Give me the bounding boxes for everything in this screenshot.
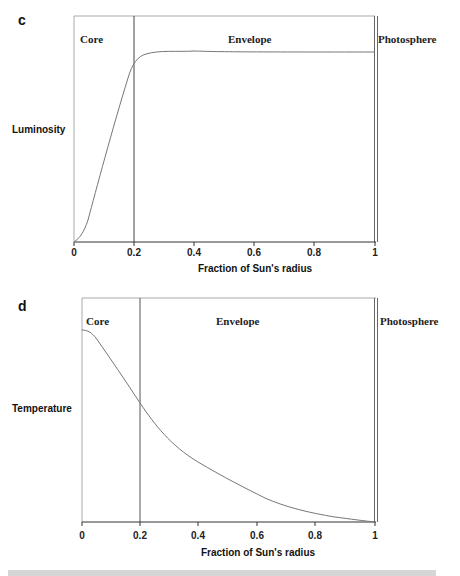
temperature-chart [0, 0, 460, 576]
footer-bar [8, 570, 436, 576]
x-tick-0-2: 0.2 [133, 530, 147, 541]
x-axis-title: Fraction of Sun's radius [201, 547, 315, 558]
x-tick-1: 1 [372, 530, 378, 541]
x-tick-0-4: 0.4 [191, 530, 205, 541]
x-tick-0-8: 0.8 [308, 530, 322, 541]
temperature-curve [82, 330, 375, 522]
x-tick-0: 0 [79, 530, 85, 541]
x-tick-0-6: 0.6 [250, 530, 264, 541]
